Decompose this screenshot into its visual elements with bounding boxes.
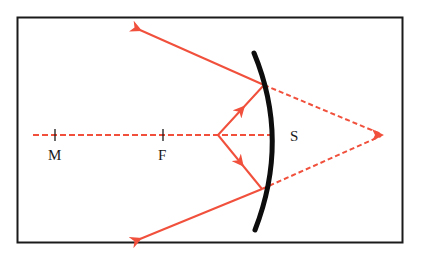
label-S: S — [290, 128, 298, 144]
convex-mirror-diagram: M F S — [0, 0, 424, 261]
label-F: F — [158, 147, 166, 163]
diagram-frame — [18, 18, 403, 243]
label-M: M — [48, 147, 61, 163]
